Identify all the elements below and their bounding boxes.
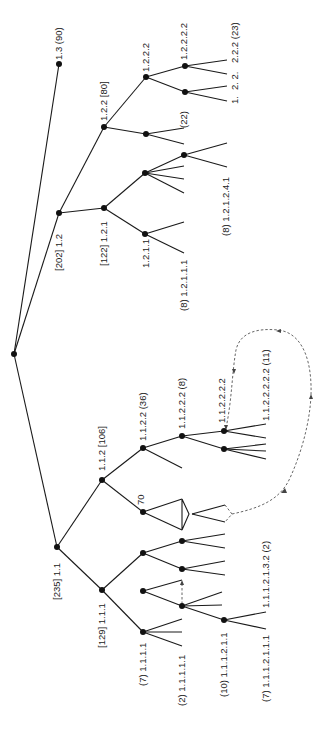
node-1-1-2	[99, 477, 105, 483]
label-1-2-2-2-leaf-a: 2.2.2 (23)	[229, 22, 240, 63]
tree-diagram: 1.3 (90) [202] 1.2 [122] 1.2.1 1.2.1.1 (…	[0, 0, 324, 733]
tree-edges	[14, 60, 266, 646]
node-1-2-2	[101, 124, 107, 130]
node-1-2-1	[101, 205, 107, 211]
label-1-1-2-2: 1.1.2.2 (36)	[137, 392, 148, 441]
dashed-links	[180, 329, 313, 604]
node-labels: 1.3 (90) [202] 1.2 [122] 1.2.1 1.2.1.1 (…	[51, 22, 271, 706]
label-1-1-1-1: (7) 1.1.1.1	[137, 643, 148, 686]
label-1-2-2-2-2: 1.2.2.2.2	[178, 23, 189, 60]
label-1-1-1-2-1-3-2: 1.1.1.2.1.3.2 (2)	[260, 541, 271, 608]
label-1-1-1-1-1: (2) 1.1.1.1.1	[176, 655, 187, 706]
label-1-1-1-2-1-1-1: (7) 1.1.1.2.1.1.1	[260, 635, 271, 702]
label-1-1-2-2-2: 1.1.2.2.2 (8)	[176, 378, 187, 429]
label-1-2-1-1-1: (8) 1.2.1.1.1	[178, 260, 189, 311]
node-1-3	[56, 61, 62, 67]
label-1-2-1-1: 1.2.1.1	[140, 239, 151, 268]
label-1-2-2-2-leaf-b: 2. 2.	[229, 72, 240, 91]
node-1-1	[54, 544, 60, 550]
node-1-1-1	[99, 587, 105, 593]
label-1-2: [202] 1.2	[53, 234, 64, 271]
label-1-1-1-2-1-1: (10) 1.1.1.2.1.1	[218, 633, 229, 697]
label-1-1-2: 1.1.2 [106]	[96, 426, 107, 471]
label-1-1-2-2-2-2-2: 1.1.2.2.2.2.2 (11)	[260, 349, 271, 421]
label-1-1-1: [129] 1.1.1	[96, 603, 107, 648]
label-1-1-2-2-2-2: 1.1.2.2.2.2	[216, 378, 227, 423]
label-1-2-1-2-4-1: (8) 1.2.1.2.4.1	[220, 177, 231, 236]
label-1-2-2-2: 1.2.2.2	[140, 43, 151, 72]
label-1-1: [235] 1.1	[51, 563, 62, 600]
node-1-2	[56, 210, 62, 216]
label-1-2-1: [122] 1.2.1	[98, 221, 109, 266]
label-1-1-2-1: 70	[135, 494, 146, 505]
label-1-2-2-2-leaf-c: 1.	[229, 96, 240, 104]
label-1-2-2-1: (22)	[178, 111, 189, 128]
tree-nodes	[11, 61, 227, 635]
node-root	[11, 351, 17, 357]
label-1-2-2: 1.2.2 [80]	[98, 81, 109, 121]
label-1-3: 1.3 (90)	[53, 27, 64, 60]
